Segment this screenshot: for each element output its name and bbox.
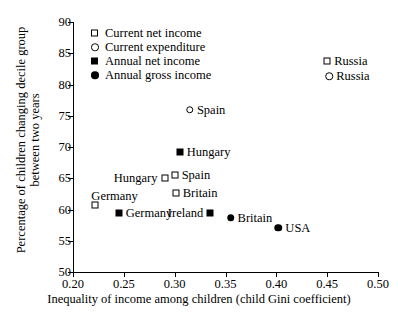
marker-circle-filled bbox=[275, 224, 283, 232]
scatter-chart-figure: 50 55 60 65 70 75 80 85 90 0.20 0.25 0.3… bbox=[0, 0, 398, 314]
marker-square-open bbox=[161, 174, 168, 181]
y-axis-line bbox=[73, 22, 74, 272]
data-point-label: Germany bbox=[91, 190, 138, 202]
marker-square-filled bbox=[176, 149, 183, 156]
legend-label: Current net income bbox=[105, 26, 202, 40]
marker-square-open bbox=[91, 30, 98, 37]
data-point-label: Hungary bbox=[114, 172, 158, 184]
marker-square-open bbox=[172, 189, 179, 196]
data-point-label: Britain bbox=[238, 212, 273, 224]
legend-label: Annual gross income bbox=[105, 68, 211, 82]
data-point-label: Hungary bbox=[187, 146, 231, 158]
marker-circle-open bbox=[91, 43, 99, 51]
marker-square-filled bbox=[115, 210, 122, 217]
data-point-label: Spain bbox=[182, 169, 210, 181]
marker-square-filled bbox=[91, 58, 98, 65]
y-axis-title: Percentage of children changing decile g… bbox=[14, 15, 42, 265]
y-axis-title-line1: Percentage of children changing decile g… bbox=[14, 27, 28, 254]
marker-square-filled bbox=[207, 210, 214, 217]
data-point-label: Britain bbox=[183, 187, 218, 199]
marker-square-open bbox=[324, 57, 331, 64]
marker-circle-open bbox=[325, 73, 333, 81]
x-axis-title: Inequality of income among children (chi… bbox=[0, 292, 398, 306]
marker-circle-filled bbox=[227, 214, 235, 222]
legend-label: Annual net income bbox=[105, 54, 200, 68]
y-axis-title-line2: between two years bbox=[28, 15, 42, 265]
x-tick-label-6: 0.50 bbox=[348, 278, 398, 290]
marker-circle-open bbox=[186, 106, 194, 114]
data-point-label: Germany bbox=[126, 207, 173, 219]
data-point-label: Spain bbox=[197, 104, 225, 116]
marker-square-open bbox=[171, 171, 178, 178]
legend-label: Current expenditure bbox=[105, 40, 205, 54]
data-point-label: Russia bbox=[334, 55, 367, 67]
marker-circle-filled bbox=[91, 71, 99, 79]
data-point-label: USA bbox=[285, 222, 310, 234]
data-point-label: Russia bbox=[336, 70, 369, 82]
data-point-label: Ireland bbox=[168, 207, 203, 219]
